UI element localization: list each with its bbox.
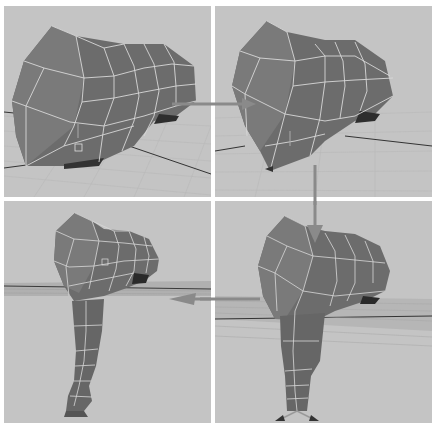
viewport-step-4 <box>215 201 432 423</box>
mesh-head-step-1 <box>4 6 211 197</box>
mesh-head-trunk-extrusion <box>215 201 432 423</box>
viewport-step-1 <box>4 6 211 197</box>
mesh-head-with-trunk <box>4 201 211 423</box>
mesh-head-step-2 <box>215 6 432 197</box>
viewport-step-2 <box>215 6 432 197</box>
viewport-step-3 <box>4 201 211 423</box>
